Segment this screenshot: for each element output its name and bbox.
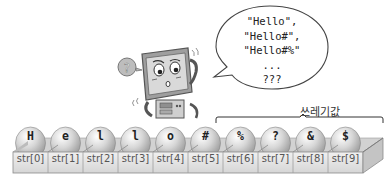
bubble-line: "Hello#", — [222, 29, 322, 44]
cell-value: $ — [328, 129, 363, 143]
speech-bubble-text: "Hello", "Hello#", "Hello#%" ... ??? — [222, 14, 322, 87]
monitor-icon — [142, 48, 192, 100]
cell-value: l — [83, 129, 118, 143]
cell-index-label: str[9] — [328, 153, 363, 164]
bubble-line: "Hello", — [222, 14, 322, 29]
pc-case-icon — [146, 100, 197, 118]
cell-index-label: str[8] — [293, 153, 328, 164]
question-mark-icon: ? — [118, 58, 142, 76]
char-array-tray — [0, 118, 385, 182]
cell-index-label: str[1] — [48, 153, 83, 164]
cell-value: % — [223, 129, 258, 143]
cell-value: o — [153, 129, 188, 143]
cell-index-label: str[3] — [118, 153, 153, 164]
svg-text:?: ? — [124, 61, 130, 75]
cell-value: e — [48, 129, 83, 143]
confused-computer-mascot: ? — [112, 40, 212, 120]
cell-index-label: str[5] — [188, 153, 223, 164]
cell-value: & — [293, 129, 328, 143]
cell-index-label: str[7] — [258, 153, 293, 164]
bubble-line: ... — [222, 58, 322, 73]
cell-index-label: str[0] — [13, 153, 48, 164]
cell-index-label: str[2] — [83, 153, 118, 164]
cell-value: # — [188, 129, 223, 143]
bubble-line: ??? — [222, 72, 322, 87]
cell-value: H — [13, 129, 48, 143]
cell-index-label: str[6] — [223, 153, 258, 164]
cell-value: l — [118, 129, 153, 143]
cell-value: ? — [258, 129, 293, 143]
bubble-line: "Hello#%" — [222, 43, 322, 58]
cell-index-label: str[4] — [153, 153, 188, 164]
